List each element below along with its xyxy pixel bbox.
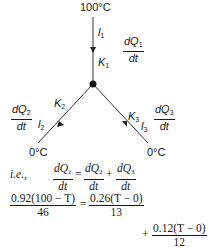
eq1-term3: dQ3 dt [116,163,136,192]
eq3-term: 0.12(T − 0) 12 [152,223,207,248]
rod-3-heat-flow: dQ3 dt [154,104,175,132]
ie-label: i.e., [10,168,27,180]
rod-1-conductivity-label: K1 [98,56,109,69]
eq1-term2: dQ2 dt [84,163,104,192]
eq1-lhs: dQ1 dt [53,163,73,192]
top-temperature: 100°C [80,1,111,13]
eq2-lhs: 0.92(100 − T) 46 [10,193,76,218]
rod-2-line [38,84,93,143]
rod-3-arrow-icon [122,121,127,127]
rod-2-conductivity-label: K2 [54,97,65,110]
rod-2-heat-flow: dQ2 dt [11,104,32,132]
rod-3-length-label: l3 [141,120,147,133]
eq1-equals: = [75,168,82,180]
eq3-plus: + [142,228,149,240]
eq1-plus: + [106,168,113,180]
rod-3-line [93,84,148,143]
left-temperature: 0°C [29,146,47,158]
eq2-equals: = [80,198,87,210]
rod-1-arrow-icon [90,47,96,53]
rod-1-length-label: l1 [98,26,104,39]
eq2-rhs: 0.26(T − 0) 13 [89,193,144,218]
rod-2-length-label: l2 [38,118,44,131]
rod-1-heat-flow: dQ1 dt [123,36,144,64]
junction-dot-icon [90,81,97,88]
right-temperature: 0°C [147,146,165,158]
rod-3-conductivity-label: K3 [128,110,139,123]
